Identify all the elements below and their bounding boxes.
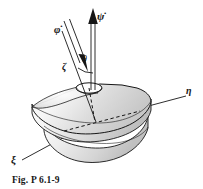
label-xi: ξ [11,154,16,165]
top-body [32,83,151,163]
label-eta: η [186,86,192,96]
figure-caption: Fig. P 6.1-9 [12,175,60,185]
label-theta: θ [82,54,87,64]
label-zeta: ζ [62,62,66,72]
label-phi-dot: φ̇ [54,24,60,35]
figure-container: φ̇ ψ̇ θ ζ η ξ Fig. P 6.1-9 [0,0,203,189]
label-psi-dot: ψ̇ [97,11,104,22]
diagram-canvas [0,0,203,189]
